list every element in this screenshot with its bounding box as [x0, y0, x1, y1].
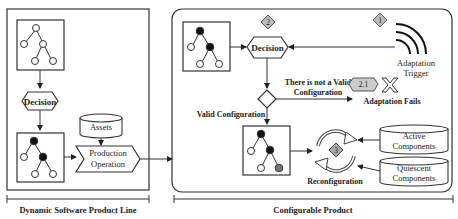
production-label-1: Production	[89, 148, 127, 158]
feature-tree-reconfigured-icon	[243, 126, 290, 175]
decision-label-left: Decision	[24, 97, 57, 107]
feature-tree-right-icon	[183, 22, 230, 71]
assets-label: Assets	[90, 122, 112, 132]
active-components-database: Active Components	[380, 125, 448, 154]
step-2-1-label: 2.1	[359, 80, 369, 89]
step-3-label: 3	[334, 146, 338, 155]
quiescent-label-1: Quiescent	[397, 163, 432, 173]
dspl-diagram: Decision Assets Production Operation Dyn…	[0, 0, 458, 219]
wireless-signal-icon	[396, 24, 426, 54]
dspl-title: Dynamic Software Product Line	[19, 205, 136, 215]
configurable-product-title: Configurable Product	[273, 205, 353, 215]
configurable-product-bracket	[174, 195, 453, 203]
feature-tree-configured-icon	[17, 133, 64, 182]
step-2-label: 2	[266, 18, 270, 27]
production-operation: Production Operation	[76, 146, 140, 172]
active-label-1: Active	[403, 131, 426, 141]
decision-node-right: Decision	[247, 37, 288, 58]
step-1-badge: 1	[373, 13, 387, 27]
invalid-label-1: There is not a Valid	[285, 78, 352, 87]
valid-config-label: Valid Configuration	[197, 110, 266, 119]
x-cross-icon	[382, 78, 398, 92]
assets-database: Assets	[80, 114, 122, 138]
step-1-label: 1	[378, 16, 382, 25]
step-2-1-badge: 2.1	[349, 78, 378, 91]
decision-label-right: Decision	[251, 43, 284, 53]
step-2-badge: 2	[261, 15, 275, 29]
trigger-label-1: Adaptation	[397, 58, 436, 68]
production-label-2: Operation	[91, 159, 126, 169]
invalid-label-2: Configuration	[294, 88, 343, 97]
adaptation-fails-label: Adaptation Fails	[363, 97, 420, 106]
quiescent-label-2: Components	[393, 173, 436, 183]
trigger-label-2: Trigger	[403, 68, 428, 78]
feature-tree-icon	[17, 20, 64, 70]
active-label-2: Components	[393, 141, 436, 151]
quiescent-components-database: Quiescent Components	[380, 157, 448, 186]
dspl-bracket	[7, 195, 149, 203]
step-3-badge: 3	[329, 143, 343, 157]
reconfiguration-label: Reconfiguration	[307, 177, 363, 186]
decision-node-left: Decision	[22, 92, 58, 110]
validity-check-diamond	[258, 90, 276, 108]
